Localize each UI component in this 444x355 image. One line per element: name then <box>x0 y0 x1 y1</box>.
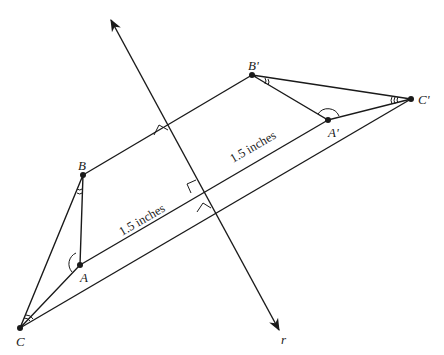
label-r: r <box>281 332 287 347</box>
measurement-right: 1.5 inches <box>228 128 279 166</box>
angle-mark-a-prime <box>318 109 339 116</box>
label-a-prime: A' <box>327 125 339 140</box>
segment-aa-prime <box>80 120 328 265</box>
angle-mark-a <box>69 253 76 272</box>
label-c: C <box>16 334 25 349</box>
label-b: B <box>78 158 86 173</box>
measurement-left: 1.5 inches <box>117 201 168 239</box>
reflection-diagram: B A C B' A' C' r 1.5 inches 1.5 inches <box>0 0 444 355</box>
vertex-a <box>77 262 83 268</box>
angle-mark-b <box>77 189 82 194</box>
label-c-prime: C' <box>418 92 430 107</box>
vertex-c <box>17 325 23 331</box>
segment-cc-prime <box>20 99 411 328</box>
right-angle-mark-c <box>197 203 211 212</box>
vertex-a-prime <box>325 117 331 123</box>
right-angle-mark-a <box>187 180 196 193</box>
segment-bb-prime <box>83 75 252 175</box>
label-a: A <box>79 270 88 285</box>
triangle-abc <box>20 175 83 328</box>
vertex-c-prime <box>408 96 414 102</box>
label-b-prime: B' <box>248 58 259 73</box>
